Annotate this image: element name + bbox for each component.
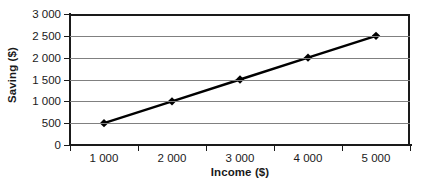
x-axis-tick-mark	[342, 146, 343, 151]
y-axis-tick-mark	[64, 58, 70, 59]
x-axis-title: Income ($)	[70, 166, 410, 178]
y-axis-tick-mark	[64, 36, 70, 37]
gridline	[70, 123, 410, 124]
x-axis-tick-mark	[138, 146, 139, 151]
gridline	[70, 101, 410, 102]
x-axis-tick-label: 4 000	[294, 152, 323, 164]
gridline	[70, 80, 410, 81]
y-axis-tick-label: 500	[42, 117, 61, 129]
x-axis-tick-label: 3 000	[226, 152, 255, 164]
gridline	[70, 58, 410, 59]
y-axis-tick-label: 2 000	[32, 52, 61, 64]
y-axis-tick-mark	[64, 80, 70, 81]
line-chart: Saving ($) 05001 0001 5002 0002 5003 000…	[0, 0, 443, 185]
y-axis-tick-label: 2 500	[32, 30, 61, 42]
y-axis-tick-mark	[64, 101, 70, 102]
y-axis-tick-labels: 05001 0001 5002 0002 5003 000	[20, 14, 66, 145]
plot-area	[70, 14, 410, 145]
y-axis-tick-label: 0	[55, 139, 61, 151]
x-axis-tick-mark	[206, 146, 207, 151]
x-axis-tick-mark	[410, 146, 411, 151]
x-axis-tick-label: 5 000	[362, 152, 391, 164]
gridline	[70, 36, 410, 37]
x-axis-tick-label: 2 000	[158, 152, 187, 164]
y-axis-tick-label: 1 000	[32, 95, 61, 107]
y-axis-tick-mark	[64, 123, 70, 124]
x-axis-tick-mark	[274, 146, 275, 151]
gridline	[70, 14, 410, 16]
y-axis-tick-label: 1 500	[32, 74, 61, 86]
x-axis-tick-mark	[70, 146, 71, 151]
y-axis-tick-mark	[64, 14, 70, 15]
x-axis-tick-label: 1 000	[90, 152, 119, 164]
x-axis-line	[69, 144, 412, 146]
y-axis-tick-label: 3 000	[32, 8, 61, 20]
y-axis-title-text: Saving ($)	[6, 47, 18, 103]
